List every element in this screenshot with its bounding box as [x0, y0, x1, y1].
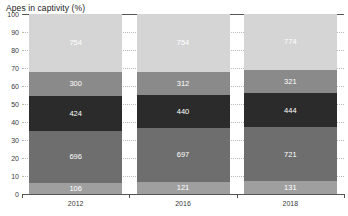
- bar-segment[interactable]: 424: [29, 96, 122, 131]
- bar-segment-value-label: 444: [284, 107, 297, 115]
- bar-group[interactable]: 131721444321774: [244, 14, 337, 194]
- bar-segment[interactable]: 754: [137, 14, 230, 72]
- y-axis-tick-label: 50: [11, 101, 19, 108]
- bar-segment-value-label: 121: [177, 184, 190, 192]
- x-axis-tick-mark: [22, 194, 23, 198]
- bar-segment[interactable]: 106: [29, 183, 122, 194]
- bar-segment-value-label: 697: [177, 151, 190, 159]
- y-axis-tick-label: 70: [11, 65, 19, 72]
- bar-segment-value-label: 131: [284, 184, 297, 192]
- bar-segment-value-label: 721: [284, 151, 297, 159]
- bar-segment[interactable]: 300: [29, 72, 122, 96]
- bar-segment[interactable]: 754: [29, 14, 122, 72]
- x-axis-tick-label: 2012: [68, 200, 84, 207]
- x-axis-line: [22, 194, 344, 195]
- x-axis-tick-label: 2018: [283, 200, 299, 207]
- y-axis-tick-labels: 0102030405060708090100: [0, 14, 22, 194]
- bar-segment-value-label: 774: [284, 38, 297, 46]
- y-axis-tick-label: 30: [11, 137, 19, 144]
- bar-segment-value-label: 424: [69, 110, 82, 118]
- x-axis-tick-mark: [237, 194, 238, 198]
- bar-segment-value-label: 300: [69, 80, 82, 88]
- bar-segment-value-label: 696: [69, 153, 82, 161]
- plot-area: 1066964243007541216974403127541317214443…: [22, 14, 344, 194]
- y-axis-tick-label: 10: [11, 173, 19, 180]
- bar-segment[interactable]: 697: [137, 128, 230, 182]
- y-axis-tick-label: 100: [7, 11, 19, 18]
- x-axis-tick-label: 2016: [175, 200, 191, 207]
- y-axis-tick-label: 20: [11, 155, 19, 162]
- bar-segment-value-label: 754: [69, 39, 82, 47]
- bar-group[interactable]: 121697440312754: [137, 14, 230, 194]
- bar-segment[interactable]: 121: [137, 182, 230, 194]
- bar-stack: 131721444321774: [244, 14, 337, 194]
- bar-segment[interactable]: 321: [244, 70, 337, 93]
- bar-segment-value-label: 312: [177, 80, 190, 88]
- bar-stack: 106696424300754: [29, 14, 122, 194]
- y-axis-tick-label: 90: [11, 29, 19, 36]
- stacked-bar-chart: Apes in captivity (%) 010203040506070809…: [0, 0, 348, 216]
- y-axis-tick-label: 0: [15, 191, 19, 198]
- bar-segment-value-label: 321: [284, 78, 297, 86]
- bar-segment[interactable]: 721: [244, 127, 337, 181]
- bar-segment[interactable]: 131: [244, 181, 337, 194]
- x-axis-tick-mark: [129, 194, 130, 198]
- bar-segment[interactable]: 444: [244, 93, 337, 127]
- x-axis-tick-mark: [344, 194, 345, 198]
- bar-segment-value-label: 754: [177, 39, 190, 47]
- y-axis-tick-label: 80: [11, 47, 19, 54]
- y-axis-tick-label: 60: [11, 83, 19, 90]
- bar-group[interactable]: 106696424300754: [29, 14, 122, 194]
- bar-segment-value-label: 106: [69, 185, 82, 193]
- y-axis-tick-label: 40: [11, 119, 19, 126]
- bar-segment[interactable]: 312: [137, 72, 230, 95]
- bar-segment[interactable]: 440: [137, 95, 230, 128]
- bar-segment-value-label: 440: [177, 108, 190, 116]
- bar-stack: 121697440312754: [137, 14, 230, 194]
- bar-segment[interactable]: 696: [29, 131, 122, 183]
- bar-segment[interactable]: 774: [244, 14, 337, 70]
- x-axis: 201220162018: [22, 194, 344, 216]
- bars-layer: 1066964243007541216974403127541317214443…: [22, 14, 344, 194]
